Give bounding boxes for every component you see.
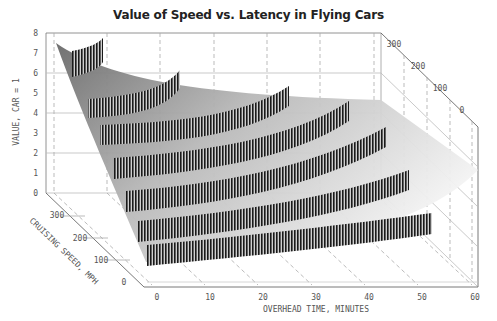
svg-text:300: 300 — [50, 211, 65, 220]
svg-text:0: 0 — [460, 106, 465, 115]
svg-text:0: 0 — [122, 278, 127, 287]
svg-text:7: 7 — [33, 49, 38, 58]
svg-text:100: 100 — [433, 84, 448, 93]
x-axis-ticks: 0 10 20 30 40 50 60 — [155, 293, 480, 302]
svg-text:100: 100 — [94, 256, 109, 265]
svg-text:3: 3 — [33, 129, 38, 138]
svg-text:2: 2 — [33, 149, 38, 158]
svg-text:0: 0 — [33, 189, 38, 198]
svg-text:0: 0 — [155, 293, 160, 302]
x-axis-label: OVERHEAD TIME, MINUTES — [263, 305, 369, 314]
svg-text:50: 50 — [417, 293, 427, 302]
svg-text:40: 40 — [364, 293, 374, 302]
svg-text:5: 5 — [33, 89, 38, 98]
z-axis-ticks: 8 7 6 5 4 3 2 1 0 — [33, 29, 38, 198]
svg-text:20: 20 — [258, 293, 268, 302]
svg-text:200: 200 — [73, 234, 88, 243]
chart-canvas: 8 7 6 5 4 3 2 1 0 VALUE, CAR = 1 0 10 20… — [0, 0, 497, 321]
svg-text:300: 300 — [387, 40, 402, 49]
svg-text:8: 8 — [33, 29, 38, 38]
y-axis-label: CRUISING SPEED, MPH — [28, 216, 100, 286]
svg-text:1: 1 — [33, 169, 38, 178]
svg-text:30: 30 — [311, 293, 321, 302]
y-axis-ticks-right: 300 200 100 0 — [387, 40, 465, 115]
svg-text:4: 4 — [33, 109, 38, 118]
svg-text:10: 10 — [205, 293, 215, 302]
z-axis-label: VALUE, CAR = 1 — [12, 78, 21, 146]
svg-text:6: 6 — [33, 69, 38, 78]
svg-text:60: 60 — [470, 293, 480, 302]
svg-text:200: 200 — [411, 62, 426, 71]
